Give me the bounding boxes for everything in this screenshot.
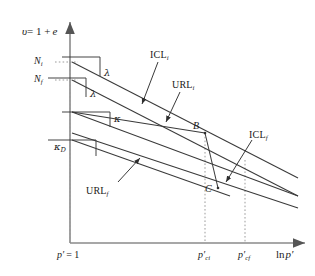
kappa-symbol: κ	[114, 113, 121, 124]
x-tick-pci-sub: ci	[205, 254, 210, 261]
y-axis-equals: = 1 +	[27, 25, 50, 37]
curve-label-url-f-base: URL	[86, 185, 107, 196]
y-tick-Ni-base: N	[34, 55, 41, 66]
slope-label-kappa: κ	[114, 114, 121, 124]
x-tick-p1-base: p′	[57, 249, 64, 260]
x-tick-label-pci: p′ci	[198, 250, 210, 262]
y-tick-Ni-sub: i	[41, 60, 43, 67]
line-url-i	[72, 112, 298, 196]
x-axis-ln: ln	[276, 248, 285, 260]
x-axis-p: p′	[286, 248, 294, 260]
line-segment-upper	[72, 112, 205, 133]
curve-label-icl-f: ICLf	[249, 130, 268, 142]
y-axis-e: e	[52, 25, 57, 37]
x-tick-label-pcf: p′cf	[238, 250, 250, 262]
y-tick-label-Nf: Nf	[34, 74, 43, 86]
leader-url-f	[118, 158, 140, 182]
axis-group	[70, 22, 305, 243]
kappa-d-sub: D	[61, 146, 66, 154]
curve-label-url-i: URLi	[172, 80, 195, 92]
guide-lines	[55, 62, 245, 243]
slope-label-lambda-1: λ	[104, 68, 110, 78]
x-tick-label-p1: p′= 1	[57, 250, 79, 260]
point-label-c: C	[205, 184, 212, 194]
x-tick-pcf-sub: cf	[245, 254, 250, 261]
y-axis-label: υ= 1 +e	[22, 26, 57, 37]
x-tick-p1-eq: = 1	[66, 249, 79, 260]
slope-label-kappa-d: κD	[54, 142, 66, 154]
point-marker-c	[217, 187, 220, 190]
point-label-b: B	[193, 121, 199, 131]
point-marker-b	[204, 132, 207, 135]
curve-label-icl-f-base: ICL	[249, 129, 266, 140]
lambda-symbol-2: λ	[90, 88, 96, 99]
point-b-text: B	[193, 120, 199, 131]
curve-label-icl-f-sub: f	[266, 134, 268, 141]
curve-label-url-i-sub: i	[193, 84, 195, 91]
curve-label-url-i-base: URL	[172, 79, 193, 90]
slope-label-lambda-2: λ	[90, 89, 96, 99]
curve-label-url-f: URLf	[86, 186, 109, 198]
y-tick-label-Ni: Ni	[34, 56, 43, 68]
lambda-symbol-1: λ	[104, 67, 110, 78]
triangle-lambda-2	[48, 78, 86, 97]
x-axis-label: lnp′	[276, 249, 293, 260]
y-tick-Nf-sub: f	[41, 78, 43, 85]
y-tick-Nf-base: N	[34, 73, 41, 84]
curve-label-icl-i-sub: i	[167, 54, 169, 61]
curve-label-url-f-sub: f	[107, 190, 109, 197]
curve-label-icl-i-base: ICL	[150, 49, 167, 60]
leader-url-i	[166, 92, 180, 122]
figure-container: υ= 1 +e Ni Nf p′= 1 p′ci p′cf lnp′ λ λ κ…	[0, 0, 315, 276]
curve-label-icl-i: ICLi	[150, 50, 169, 62]
leader-icl-i	[142, 62, 158, 104]
point-c-text: C	[205, 183, 212, 194]
